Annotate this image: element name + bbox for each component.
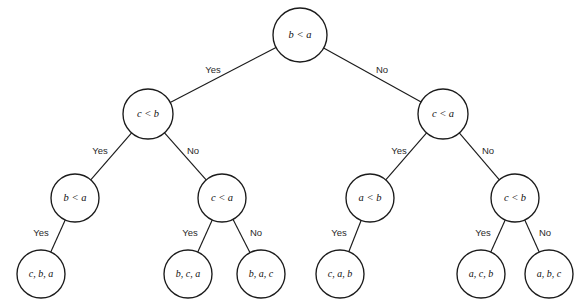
edge-label: Yes xyxy=(475,227,491,238)
decision-node-label: a < b xyxy=(359,192,382,203)
edge-label: Yes xyxy=(182,227,198,238)
decision-node[interactable]: c < b xyxy=(491,174,539,222)
leaf-node[interactable]: c, b, a xyxy=(17,250,65,298)
leaf-node[interactable]: b, c, a xyxy=(164,250,212,298)
decision-node-label: c < a xyxy=(211,192,233,203)
decision-node[interactable]: c < b xyxy=(123,89,173,139)
edge-label: No xyxy=(539,227,551,238)
tree-edge xyxy=(233,219,250,252)
tree-edge xyxy=(491,220,505,252)
tree-edge xyxy=(349,220,361,251)
leaf-node-label: a, c, b xyxy=(469,268,493,279)
decision-node-label: c < b xyxy=(504,192,526,203)
edge-label: No xyxy=(482,145,494,156)
edge-label: Yes xyxy=(92,145,108,156)
leaf-node[interactable]: c, a, b xyxy=(316,250,364,298)
decision-node[interactable]: b < a xyxy=(51,174,99,222)
decision-node[interactable]: b < a xyxy=(273,8,327,62)
edge-label: Yes xyxy=(205,64,221,75)
decision-tree-diagram: YesNoYesNoYesNoYesYesNoYesYesNo b < ac <… xyxy=(0,0,581,305)
tree-edge xyxy=(324,48,421,102)
tree-edge xyxy=(165,133,207,180)
decision-node-label: b < a xyxy=(64,192,87,203)
tree-canvas: YesNoYesNoYesNoYesYesNoYesYesNo b < ac <… xyxy=(0,0,581,305)
leaf-node-label: a, b, c xyxy=(537,268,562,279)
leaf-node-label: c, a, b xyxy=(328,268,352,279)
edge-label: No xyxy=(187,145,199,156)
leaf-node-label: b, a, c xyxy=(249,268,274,279)
tree-edge xyxy=(386,133,427,180)
decision-node-label: c < b xyxy=(137,108,159,119)
decision-node-label: c < a xyxy=(432,108,454,119)
tree-edge xyxy=(459,133,499,180)
leaf-node[interactable]: b, a, c xyxy=(237,250,285,298)
leaf-node-label: b, c, a xyxy=(176,268,200,279)
tree-edge xyxy=(170,47,276,102)
leaf-node[interactable]: a, c, b xyxy=(457,250,505,298)
edge-labels-layer: YesNoYesNoYesNoYesYesNoYesYesNo xyxy=(33,64,551,238)
edge-label: Yes xyxy=(331,227,347,238)
leaf-node[interactable]: a, b, c xyxy=(525,250,573,298)
edges-layer xyxy=(51,47,539,252)
edge-label: Yes xyxy=(33,227,49,238)
decision-node[interactable]: c < a xyxy=(418,89,468,139)
edge-label: No xyxy=(250,227,262,238)
decision-node[interactable]: c < a xyxy=(198,174,246,222)
decision-node-label: b < a xyxy=(289,29,312,40)
edge-label: No xyxy=(376,64,388,75)
edge-label: Yes xyxy=(391,145,407,156)
leaf-node-label: c, b, a xyxy=(29,268,53,279)
tree-edge xyxy=(525,220,539,252)
decision-node[interactable]: a < b xyxy=(346,174,394,222)
tree-edge xyxy=(51,220,65,252)
tree-edge xyxy=(91,133,132,180)
tree-edge xyxy=(198,220,212,252)
